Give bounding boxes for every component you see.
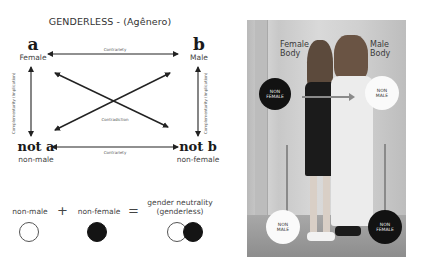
right-vertical-arrow <box>384 144 386 214</box>
label-non-male: non-male <box>12 155 60 164</box>
male-model-shoes <box>335 226 361 236</box>
equation-term-non-female: non-female <box>74 207 124 216</box>
letter-not-a: not a <box>12 138 60 155</box>
non-male-circle-lower: NONMALE <box>266 210 300 244</box>
equation-term-non-male: non-male <box>8 207 52 216</box>
female-model-leg <box>323 176 330 232</box>
male-model-hair <box>334 35 368 81</box>
wall-pillar <box>255 20 268 220</box>
label-male: Male <box>184 53 214 62</box>
corner-a: a Female <box>16 36 50 62</box>
corner-not-b: not b non-female <box>174 138 222 164</box>
equation-result: gender neutrality (genderless) <box>144 198 216 216</box>
result-line-2: (genderless) <box>144 207 216 216</box>
letter-b: b <box>184 36 214 53</box>
arrowhead-icon <box>349 93 355 101</box>
non-female-circle-lower: NONFEMALE <box>368 210 402 244</box>
letter-not-b: not b <box>174 138 222 155</box>
non-female-circle-upper: NONFEMALE <box>259 78 291 110</box>
letter-a: a <box>16 36 50 53</box>
left-vertical-arrow <box>286 145 288 213</box>
black-circle-icon <box>87 222 107 242</box>
label-non-female: non-female <box>174 155 222 164</box>
result-line-1: gender neutrality <box>144 198 216 207</box>
equals-sign: = <box>128 203 139 218</box>
label-right-complementarity: Complementarity (Implication) <box>203 74 213 134</box>
label-female: Female <box>16 53 50 62</box>
label-bottom-contrariety: Contrariety <box>95 150 135 155</box>
label-top-contrariety: Contrariety <box>95 47 135 52</box>
male-body-label: Male Body <box>370 40 390 58</box>
white-circle-icon <box>19 222 39 242</box>
plus-sign: + <box>57 203 68 218</box>
female-model-sneakers <box>307 232 335 241</box>
female-model-leg <box>310 176 317 232</box>
corner-not-a: not a non-male <box>12 138 60 164</box>
corner-b: b Male <box>184 36 214 62</box>
black-circle-icon <box>183 222 203 242</box>
label-left-complementarity: Complementarity (Implication) <box>11 74 21 134</box>
fashion-photo: Female Body Male Body NONFEMALE NONMALE … <box>247 20 406 257</box>
label-contradiction: Contradiction <box>92 117 138 122</box>
non-male-circle-upper: NONMALE <box>365 76 399 110</box>
female-body-label: Female Body <box>280 40 309 58</box>
horizontal-arrow <box>302 96 350 98</box>
